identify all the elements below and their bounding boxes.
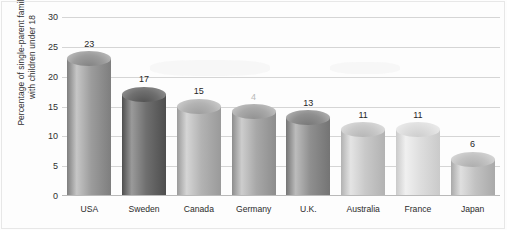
bar-u-k[interactable]: 13 — [286, 17, 330, 196]
y-tick-5: 5 — [28, 161, 58, 171]
y-axis-ticks: 30 25 20 15 10 5 0 — [0, 17, 62, 196]
bar-body — [396, 130, 440, 195]
bar-column — [396, 130, 440, 195]
bar-cap-ellipse — [451, 152, 495, 167]
bar-column — [67, 59, 111, 195]
bar-body — [177, 106, 221, 195]
y-tick-20: 20 — [28, 72, 58, 82]
bar-body — [286, 118, 330, 195]
bar-australia[interactable]: 11 — [341, 17, 385, 196]
bar-column — [177, 106, 221, 195]
bar-body — [122, 94, 166, 195]
y-tick-25: 25 — [28, 42, 58, 52]
x-label-canada: Canada — [172, 204, 227, 214]
bar-value-label: 23 — [84, 39, 94, 49]
x-axis-labels: USASwedenCanadaGermanyU.K.AustraliaFranc… — [62, 200, 500, 224]
bar-value-label: 17 — [139, 74, 149, 84]
bar-value-label: 15 — [194, 86, 204, 96]
bar-column — [232, 112, 276, 195]
x-label-sweden: Sweden — [117, 204, 172, 214]
bar-value-label: 13 — [303, 98, 313, 108]
x-label-australia: Australia — [336, 204, 391, 214]
bar-body — [341, 130, 385, 195]
x-label-japan: Japan — [445, 204, 500, 214]
bar-value-label: 4 — [251, 92, 256, 102]
bar-column — [122, 94, 166, 195]
y-tick-15: 15 — [28, 102, 58, 112]
bar-germany[interactable]: 4 — [232, 17, 276, 196]
bar-value-label: 11 — [413, 110, 422, 120]
bar-chart: Percentage of single-parent families wit… — [0, 0, 507, 230]
y-tick-0: 0 — [28, 191, 58, 201]
x-label-germany: Germany — [226, 204, 281, 214]
bar-value-label: 11 — [358, 110, 367, 120]
x-label-usa: USA — [62, 204, 117, 214]
bar-cap-ellipse — [177, 99, 221, 114]
bar-cap-ellipse — [122, 87, 166, 102]
bar-canada[interactable]: 15 — [177, 17, 221, 196]
bar-body — [67, 59, 111, 195]
bar-column — [286, 118, 330, 195]
y-tick-10: 10 — [28, 131, 58, 141]
bar-column — [341, 130, 385, 195]
bar-value-label: 6 — [470, 139, 475, 149]
bar-series: 23171541311116 — [62, 17, 500, 196]
y-tick-30: 30 — [28, 12, 58, 22]
x-label-france: France — [391, 204, 446, 214]
bar-japan[interactable]: 6 — [451, 17, 495, 196]
bar-france[interactable]: 11 — [396, 17, 440, 196]
bar-sweden[interactable]: 17 — [122, 17, 166, 196]
bar-usa[interactable]: 23 — [67, 17, 111, 196]
plot-area: 23171541311116 — [62, 17, 500, 196]
x-label-u-k: U.K. — [281, 204, 336, 214]
bar-column — [451, 159, 495, 195]
bar-body — [232, 112, 276, 195]
